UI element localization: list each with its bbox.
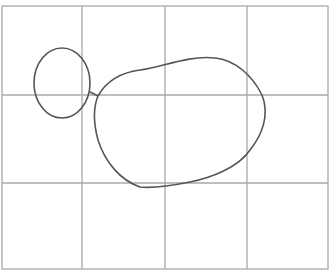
grid bbox=[2, 6, 328, 269]
grid-diagram bbox=[0, 0, 332, 278]
large-blob bbox=[95, 58, 266, 188]
